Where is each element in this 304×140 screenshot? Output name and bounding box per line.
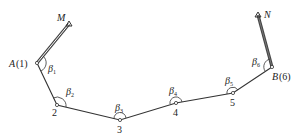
known-line-AM [37, 24, 69, 63]
label-B-number: (6) [279, 71, 291, 83]
label-M: M [56, 12, 66, 23]
label-beta5: β5 [224, 75, 233, 87]
label-beta6: β6 [251, 56, 260, 68]
station-3-marker [118, 118, 121, 121]
label-beta1: β1 [47, 63, 56, 75]
label-beta2: β2 [65, 86, 74, 98]
station-B-marker [270, 65, 273, 68]
label-B-letter: B [272, 71, 278, 82]
station-4-marker [174, 101, 177, 104]
label-beta3: β3 [114, 102, 123, 114]
label-N: N [263, 9, 272, 20]
label-station-2: 2 [52, 107, 57, 118]
label-station-3: 3 [117, 124, 122, 135]
traverse-diagram: M N A (1) B (6) 2 3 4 5 β1 β2 β3 β4 β5 β… [0, 0, 304, 140]
station-A-marker [35, 61, 38, 64]
station-5-marker [231, 91, 234, 94]
label-A-number: (1) [16, 58, 28, 70]
label-A-letter: A [8, 58, 16, 69]
label-station-4: 4 [173, 107, 178, 118]
label-beta4: β4 [168, 85, 177, 97]
label-station-5: 5 [230, 97, 235, 108]
